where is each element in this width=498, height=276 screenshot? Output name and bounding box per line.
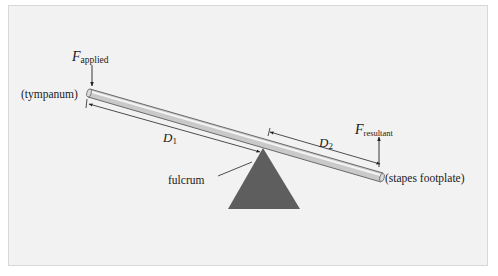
fulcrum-triangle (228, 148, 300, 209)
lever-diagram: Fapplied (tympanum) D1 D2 Fresultant ful… (0, 0, 498, 276)
d2-label: D2 (318, 135, 333, 151)
lever-bar (86, 88, 386, 182)
force-resultant-label: Fresultant (354, 122, 393, 138)
stapes-footplate-label: (stapes footplate) (385, 172, 465, 185)
d1-label: D1 (162, 130, 177, 146)
fulcrum-leader (218, 162, 252, 176)
tympanum-label: (tympanum) (21, 88, 78, 101)
fulcrum-label: fulcrum (168, 174, 204, 186)
force-applied-label: Fapplied (71, 49, 109, 65)
